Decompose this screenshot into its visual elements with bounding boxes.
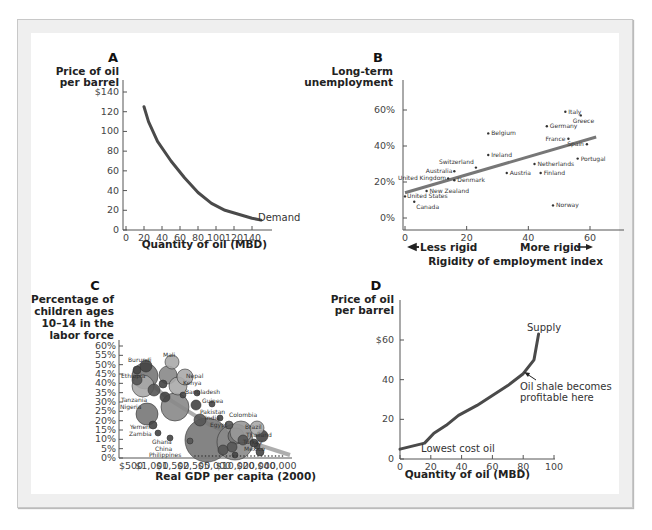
panel-b-ytick: 20% [374, 176, 395, 187]
panel-b-ytick: 0% [380, 212, 395, 223]
label-austria: Austria [510, 169, 532, 176]
panel-b-axes: 60%40%20%0%0204060ItalyGreeceGermanyBelg… [374, 80, 624, 250]
label-belgium: Belgium [491, 129, 516, 137]
supply-curve [400, 334, 539, 449]
label-zambia: Zambia [129, 430, 152, 437]
point-denmark [453, 179, 455, 181]
label-netherlands: Netherlands [538, 160, 575, 167]
panel-d-lowest-cost-annotation: Lowest cost oil [421, 443, 495, 454]
label-france: France [545, 135, 565, 142]
demand-curve [144, 107, 261, 220]
panel-d-oil-shale-annotation-line2: profitable here [520, 392, 594, 403]
country-bubble [155, 430, 161, 436]
label-colombia: Colombia [229, 411, 258, 418]
panel-a-letter: A [108, 50, 118, 65]
label-germany: Germany [550, 122, 578, 130]
label-tanzania: Tanzania [120, 396, 147, 403]
panel-a-ytick: 40 [107, 185, 119, 196]
panel-a-ytick: 0 [113, 224, 119, 235]
panel-a-ytick: 20 [107, 204, 119, 215]
label-brazil: Brazil [245, 423, 262, 430]
label-kenya: Kenya [183, 379, 202, 387]
panel-b-ytick: 40% [374, 140, 395, 151]
label-ethiopia: Ethiopia [121, 372, 146, 380]
panel-b: B Long-term unemployment 60%40%20%0%0204… [304, 50, 624, 267]
label-mexico: Mexico [244, 445, 265, 452]
country-bubble [187, 438, 193, 444]
panel-d-letter: D [371, 278, 382, 293]
label-italy: Italy [568, 108, 581, 116]
label-finland: Finland [544, 169, 566, 176]
point-greece [580, 114, 582, 116]
label-united-states: United States [407, 192, 448, 199]
panel-b-xtick: 0 [402, 232, 408, 243]
panel-d-xtick: 0 [397, 461, 403, 472]
point-portugal [576, 157, 578, 159]
panel-a-demand-label: Demand [258, 212, 300, 223]
point-ireland [487, 154, 489, 156]
panel-c: C Percentage of children ages 10–14 in t… [31, 278, 316, 482]
point-united-states [404, 195, 406, 197]
panel-a-ytick: 60 [107, 165, 119, 176]
point-spain [586, 143, 588, 145]
panel-d-ytick: 20 [382, 413, 394, 424]
label-thailand: Thailand [245, 431, 272, 438]
panel-b-ylabel-line2: unemployment [304, 76, 393, 88]
panel-d-xtick: 100 [545, 461, 563, 472]
panel-c-letter: C [90, 278, 100, 293]
panel-c-ylabel-line2: children ages [34, 305, 114, 317]
point-united-kingdom [447, 177, 449, 179]
panel-d-ytick: 0 [388, 453, 394, 464]
panel-b-xlabel: Rigidity of employment index [428, 255, 603, 267]
point-canada [413, 201, 415, 203]
label-united-kingdom: United Kingdom [398, 174, 446, 182]
country-bubble [218, 445, 228, 455]
panel-c-ylabel-line3: 10–14 in the [42, 317, 114, 329]
panel-a-ytick: $140 [95, 86, 119, 97]
label-guinea: Guinea [202, 397, 224, 404]
panel-d-xlabel: Quantity of oil (MBD) [405, 468, 530, 480]
label-mali: Mali [163, 351, 176, 358]
panel-a-ytick: 80 [107, 145, 119, 156]
panel-b-less-rigid: Less rigid [420, 241, 477, 253]
label-australia: Australia [426, 167, 453, 174]
label-norway: Norway [556, 201, 579, 209]
label-india: India [205, 414, 220, 421]
panel-a-xtick: 0 [123, 232, 129, 243]
label-egypt: Egypt [210, 421, 228, 429]
figure-svg: A Price of oil per barrel $1401201008060… [0, 0, 652, 530]
point-italy [564, 111, 566, 113]
point-finland [539, 172, 541, 174]
country-bubble [232, 452, 238, 458]
panel-d-ylabel-line2: per barrel [335, 304, 394, 316]
point-norway [552, 204, 554, 206]
label-ireland: Ireland [491, 151, 512, 158]
panel-c-ylabel-line1: Percentage of [31, 293, 114, 305]
panel-a-axes: $140120100806040200020406080100120140 [95, 80, 272, 243]
label-portugal: Portugal [581, 155, 606, 163]
panel-b-xtick: 60 [584, 232, 596, 243]
panel-c-axes: 60%55%50%45%40%35%30%25%20%15%10%5%0%$50… [95, 340, 297, 471]
label-ghana: Ghana [152, 438, 172, 445]
panel-a-xlabel: Quantity of oil (MBD) [142, 238, 267, 250]
country-bubble [160, 392, 170, 402]
point-netherlands [533, 163, 535, 165]
label-spain: Spain [567, 140, 584, 148]
panel-d: D Price of oil per barrel $6040200020406… [331, 278, 612, 480]
label-denmark: Denmark [457, 176, 485, 183]
point-australia [453, 170, 455, 172]
label-yemen: Yemen [129, 423, 150, 430]
panel-b-letter: B [373, 50, 383, 65]
point-switzerland [475, 166, 477, 168]
panel-a-ytick: 100 [101, 125, 119, 136]
panel-b-ytick: 60% [374, 104, 395, 115]
point-austria [506, 172, 508, 174]
panel-a-ytick: 120 [101, 106, 119, 117]
label-switzerland: Switzerland [439, 158, 474, 165]
panel-d-ytick: $60 [376, 334, 394, 345]
point-germany [546, 125, 548, 127]
panel-d-supply-label: Supply [527, 322, 561, 333]
label-bangladesh: Bangladesh [185, 388, 220, 396]
country-bubble [227, 442, 237, 452]
country-bubble [149, 421, 157, 429]
